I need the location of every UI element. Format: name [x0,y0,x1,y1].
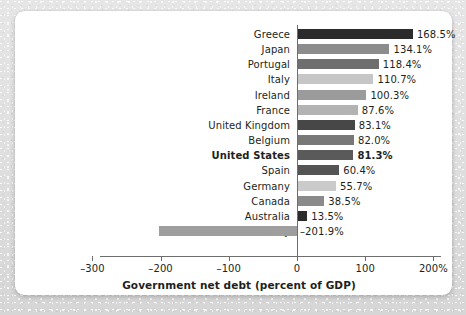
bar-value-label: 82.0% [358,136,390,146]
axis-title: Government net debt (percent of GDP) [122,279,356,291]
bar [298,105,358,115]
x-axis-tick-label: 0 [275,263,319,274]
category-label: United States [145,151,290,161]
x-axis-tick [297,256,298,261]
page-background: GreeceJapanPortugalItalyIrelandFranceUni… [0,0,466,315]
bar [298,29,413,39]
category-label: Belgium [145,136,290,146]
x-axis-tick [229,256,230,261]
x-axis-tick-label: 200% [411,263,455,274]
bar-value-label: 87.6% [362,106,394,116]
bar [298,90,366,100]
bar-value-label: 134.1% [393,45,432,55]
bar [298,211,307,221]
category-label: Germany [145,182,290,192]
x-axis-tick-label: 100 [343,263,387,274]
bar-value-label: 118.4% [383,60,422,70]
value-axis-line [100,256,441,257]
bar [159,226,297,236]
category-label: United Kingdom [145,121,290,131]
bar [298,44,389,54]
bar [298,181,336,191]
bar-chart: GreeceJapanPortugalItalyIrelandFranceUni… [15,11,452,295]
category-label: Spain [145,166,290,176]
category-label: Ireland [145,91,290,101]
x-axis-tick [365,256,366,261]
bar [298,74,373,84]
x-axis-tick [433,256,434,261]
bar [298,59,379,69]
bar [298,150,353,160]
bar-value-label: –201.9% [300,227,344,237]
bar [298,196,324,206]
bar-value-label: 168.5% [417,30,456,40]
category-label: France [145,106,290,116]
x-axis-tick-label: –100 [207,263,251,274]
bar [298,165,339,175]
x-axis-tick-label: –200 [139,263,183,274]
bar-value-label: 55.7% [340,182,372,192]
bar-value-label: 110.7% [377,75,416,85]
bar-value-label: 13.5% [311,212,343,222]
bar-value-label: 83.1% [359,121,391,131]
category-axis-labels: GreeceJapanPortugalItalyIrelandFranceUni… [15,11,290,261]
category-label: Greece [145,30,290,40]
x-axis-tick [92,256,93,261]
category-label: Italy [145,75,290,85]
bar [298,120,355,130]
bar-value-label: 60.4% [343,166,375,176]
category-label: Canada [145,197,290,207]
bar-value-label: 38.5% [328,197,360,207]
chart-card: GreeceJapanPortugalItalyIrelandFranceUni… [15,11,452,295]
bar-value-label: 81.3% [357,151,392,161]
x-axis-tick [161,256,162,261]
category-label: Portugal [145,60,290,70]
bar-value-label: 100.3% [370,91,409,101]
bar [298,135,354,145]
x-axis-tick-label: –300 [70,263,114,274]
category-label: Japan [145,45,290,55]
category-label: Australia [145,212,290,222]
